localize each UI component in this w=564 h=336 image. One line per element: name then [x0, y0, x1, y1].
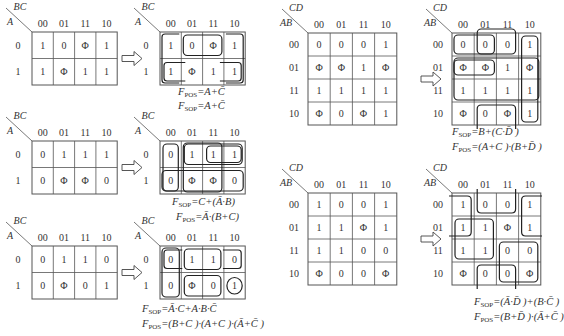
map-cell-value: 0 [168, 149, 173, 160]
column-label: 10 [525, 19, 535, 30]
map-cell-value: 1 [168, 40, 173, 51]
map-cell-value: 0 [40, 175, 45, 186]
row-label: 0 [16, 40, 21, 51]
map-cell-value: 1 [83, 149, 88, 160]
column-label: 10 [102, 232, 112, 243]
map-cell-value: Φ [360, 222, 367, 233]
map-cell-value: 1 [527, 199, 532, 210]
function-subscript: POS [148, 323, 161, 331]
map-cell-value: 0 [211, 280, 216, 291]
map-cell-value: 1 [527, 39, 532, 50]
hollow-right-arrow-icon [122, 161, 142, 175]
map-cell-value: 1 [383, 222, 388, 233]
grouping-loop-bottom-right [220, 63, 241, 82]
kmap-c-original: BCA000111100101100Φ01 [6, 215, 117, 299]
map-cell-value: 1 [232, 66, 237, 77]
column-label: 00 [38, 127, 48, 138]
map-cell-value: Φ [526, 268, 533, 279]
column-label: 10 [102, 18, 112, 29]
row-variable-label: A [6, 16, 14, 27]
row-label: 01 [433, 222, 443, 233]
map-cell-value: 1 [61, 254, 66, 265]
map-cell-value: 0 [361, 199, 366, 210]
map-cell-value: 1 [339, 245, 344, 256]
map-cell-value: 0 [104, 254, 109, 265]
map-cell-value: 1 [61, 149, 66, 160]
column-label: 00 [314, 179, 324, 190]
row-label: 11 [289, 245, 299, 256]
map-cell-value: 0 [483, 199, 488, 210]
row-label: 01 [289, 62, 299, 73]
map-cell-value: Φ [188, 175, 195, 186]
map-cell-value: 0 [483, 108, 488, 119]
map-cell-value: 0 [361, 39, 366, 50]
map-cell-value: 1 [461, 245, 466, 256]
map-cell-value: 0 [168, 280, 173, 291]
column-label: 01 [59, 18, 69, 29]
column-label: 01 [187, 127, 197, 138]
row-variable-label: A [134, 125, 142, 136]
row-label: 11 [433, 245, 443, 256]
map-cell-value: 1 [361, 85, 366, 96]
map-cell-value: Φ [504, 222, 511, 233]
row-label: 0 [144, 40, 149, 51]
map-cell-value: 0 [339, 39, 344, 50]
map-cell-value: Φ [459, 108, 466, 119]
map-cell-value: Φ [60, 66, 67, 77]
column-label: 11 [80, 18, 90, 29]
row-label: 0 [16, 254, 21, 265]
map-cell-value: 0 [104, 175, 109, 186]
row-label: 1 [16, 66, 21, 77]
function-subscript: SOP [458, 131, 471, 139]
kmap-b-original: BCA000111100101110ΦΦ0 [6, 110, 117, 194]
boolean-formula: FSOP=B+(C·D̄ ) [452, 126, 519, 139]
map-cell-value: 0 [40, 254, 45, 265]
column-label: 11 [359, 179, 369, 190]
row-label: 10 [433, 108, 443, 119]
column-label: 11 [503, 179, 513, 190]
kmap-a-grouped: BCA000111100110Φ11Φ11 [134, 1, 245, 85]
function-expression: =Ā·C+A·B·C̄ [161, 303, 216, 314]
column-label: 00 [38, 232, 48, 243]
map-cell-value: 1 [383, 199, 388, 210]
row-label: 1 [144, 175, 149, 186]
map-cell-value: 0 [189, 40, 194, 51]
map-cell-value: 1 [104, 66, 109, 77]
map-cell-value: 1 [232, 280, 237, 291]
map-cell-value: 0 [361, 268, 366, 279]
column-variable-label: BC [142, 215, 155, 226]
column-label: 00 [166, 18, 176, 29]
row-label: 00 [433, 39, 443, 50]
map-cell-value: 1 [189, 254, 194, 265]
map-cell-value: Φ [382, 268, 389, 279]
map-cell-value: 1 [104, 280, 109, 291]
map-cell-value: Φ [526, 62, 533, 73]
column-label: 01 [336, 179, 346, 190]
column-label: 01 [59, 127, 69, 138]
column-label: 01 [59, 232, 69, 243]
row-label: 11 [433, 85, 443, 96]
boolean-formula: FSOP=Ā·C+A·B·C̄ [142, 303, 217, 316]
map-cell-value: 1 [104, 40, 109, 51]
map-cell-value: 0 [483, 39, 488, 50]
map-cell-value: 1 [211, 254, 216, 265]
map-cell-value: Φ [504, 108, 511, 119]
column-label: 11 [359, 19, 369, 30]
map-cell-value: Φ [210, 40, 217, 51]
hollow-right-arrow-icon [122, 266, 142, 280]
map-cell-value: 0 [361, 245, 366, 256]
column-variable-label: CD [433, 2, 448, 13]
boolean-formula: FSOP=(Ā·D̄ )+(B·C̄ ) [474, 296, 559, 309]
map-cell-value: 1 [505, 85, 510, 96]
column-label: 11 [80, 127, 90, 138]
column-label: 11 [503, 19, 513, 30]
function-expression: =(Ā·D̄ )+(B·C̄ ) [493, 296, 559, 307]
map-cell-value: 1 [40, 40, 45, 51]
map-cell-value: 0 [383, 245, 388, 256]
kmap-e-original: CDAB0001111000011110100111Φ11100Φ00Φ [279, 162, 397, 285]
map-cell-value: Φ [315, 62, 322, 73]
function-subscript: POS [184, 91, 197, 99]
map-cell-value: 0 [505, 245, 510, 256]
function-subscript: SOP [184, 105, 197, 113]
map-cell-value: 0 [505, 268, 510, 279]
